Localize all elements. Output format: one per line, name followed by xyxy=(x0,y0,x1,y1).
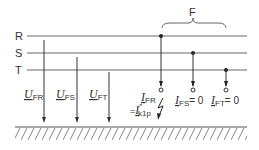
arrowhead-icon xyxy=(75,117,79,123)
phase-label-s: S xyxy=(15,47,22,59)
fault-brace xyxy=(162,18,226,28)
ground-hatching xyxy=(15,128,247,140)
voltage-label-ft: UFT xyxy=(89,87,108,102)
terminal-r xyxy=(159,88,163,92)
arrowhead-icon xyxy=(42,117,46,123)
fault-connections xyxy=(159,34,228,92)
single-line-to-ground-fault-diagram: R S T UFR UFS UFT F xyxy=(0,0,259,150)
voltage-label-fr: UFR xyxy=(24,87,44,102)
phase-label-r: R xyxy=(15,30,23,42)
phase-conductors xyxy=(27,36,247,70)
arrowhead-icon xyxy=(224,81,228,87)
terminal-s xyxy=(191,88,195,92)
current-label-fs: IFS= 0 xyxy=(174,93,204,108)
ground-reference xyxy=(15,127,247,140)
arrowhead-icon xyxy=(107,117,111,123)
fault-label: F xyxy=(189,6,196,18)
current-label-fr: IFR xyxy=(140,90,156,105)
voltage-arrows xyxy=(42,40,111,123)
terminal-t xyxy=(224,88,228,92)
arrowhead-icon xyxy=(159,81,163,87)
voltage-label-fs: UFS xyxy=(56,87,75,102)
ground-fault-lightning-icon xyxy=(157,98,163,120)
current-label-ft: IFT= 0 xyxy=(210,93,239,108)
arrowhead-icon xyxy=(191,81,195,87)
phase-label-t: T xyxy=(15,64,22,76)
